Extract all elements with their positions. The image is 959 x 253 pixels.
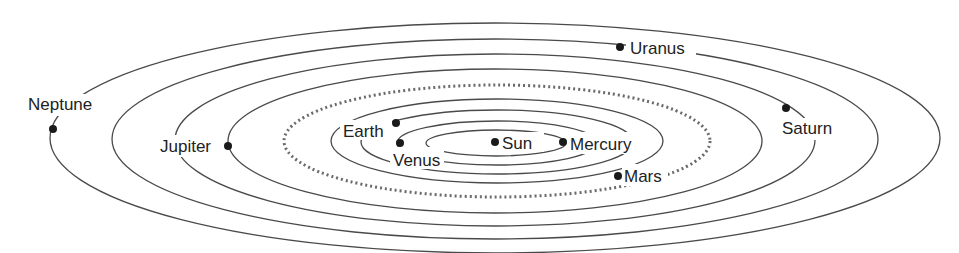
solar-system-diagram: Sun Mercury Venus Earth Mars Jupiter Sat… bbox=[0, 0, 959, 253]
neptune-dot bbox=[49, 125, 57, 133]
mars-dot bbox=[614, 172, 622, 180]
sun-dot bbox=[491, 138, 499, 146]
uranus-dot bbox=[616, 43, 624, 51]
earth-dot bbox=[392, 119, 400, 127]
earth-label: Earth bbox=[343, 122, 384, 141]
uranus-label: Uranus bbox=[630, 39, 685, 58]
neptune-label: Neptune bbox=[28, 95, 92, 114]
venus-dot bbox=[396, 139, 404, 147]
mars-label: Mars bbox=[624, 167, 662, 186]
venus-label: Venus bbox=[393, 151, 440, 170]
jupiter-dot bbox=[224, 142, 232, 150]
saturn-label: Saturn bbox=[782, 119, 832, 138]
jupiter-label: Jupiter bbox=[160, 137, 211, 156]
mercury-label: Mercury bbox=[570, 135, 632, 154]
sun-label: Sun bbox=[502, 134, 532, 153]
saturn-dot bbox=[782, 104, 790, 112]
mercury-dot bbox=[559, 138, 567, 146]
